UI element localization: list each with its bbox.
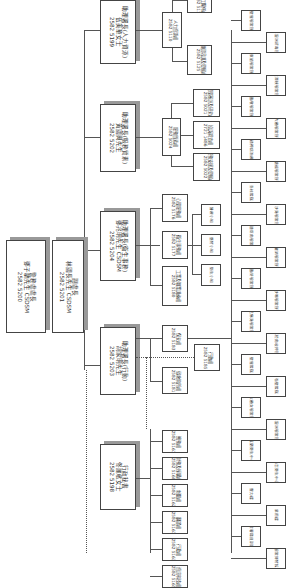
health-sub-box[interactable]: 藥物小組	[201, 234, 221, 256]
institution-box[interactable]: 紫荊樓	[266, 505, 286, 526]
ops-child-box[interactable]: 保安組 2582 5183	[162, 325, 188, 352]
health-child-box[interactable]: 工業及職業訓練組 2582 5180	[162, 266, 188, 306]
connector-line	[231, 149, 241, 150]
institution-box[interactable]: 壁屋懲教所	[241, 10, 261, 31]
health-sub-box[interactable]: 醫療小組	[201, 204, 221, 226]
institution-box[interactable]: 羅湖懲教所	[266, 247, 286, 268]
institution-box[interactable]: 豐力樓	[241, 483, 261, 504]
connector-line	[150, 285, 162, 286]
assistant-box-admin[interactable]: 行政秘書 佟麗敏女士 2582 5198	[100, 444, 136, 510]
admin-child-box[interactable]: 總務組2582 5161	[162, 430, 188, 453]
quality-child-box[interactable]: 管理審計及研究組 2582 5021	[193, 89, 220, 117]
connector-line	[231, 515, 266, 516]
institution-box[interactable]: 赤柱監獄	[241, 182, 261, 203]
connector-line	[231, 20, 241, 21]
hr-child-box[interactable]: 員工關係組 2582 5111	[187, 0, 212, 13]
admin-child-box[interactable]: 行政組2582 5163	[162, 538, 188, 561]
assistant-title: 助理署長(人力資源)	[121, 6, 127, 58]
hr-head-box[interactable]: 人力資源組 2582 5110	[162, 12, 182, 48]
institution-box[interactable]: 白沙灣懲教所	[266, 204, 286, 225]
deputy-name: 林國長先生 CSDSM	[65, 261, 71, 313]
institution-box[interactable]: 喜靈洲戒毒所	[266, 32, 286, 53]
institution-box[interactable]: 勵新懲教所	[241, 268, 261, 289]
connector-line	[231, 257, 266, 258]
box-phone: 2582 5177	[170, 234, 175, 257]
institution-name: 大欖懲教所	[274, 118, 278, 138]
institution-box[interactable]: 歌連臣角懲教所	[241, 225, 261, 246]
box-phone: 2582 5162	[170, 484, 175, 507]
box-title: 藥物小組	[209, 237, 213, 253]
connector-line	[136, 338, 162, 339]
connector-line	[231, 106, 241, 107]
health-child-box[interactable]: 衛生事務組 2582 5177	[162, 231, 188, 259]
institution-box[interactable]: 荔枝角收押所	[266, 333, 286, 354]
institution-box[interactable]: 石壁監獄	[266, 376, 286, 397]
assistant-phone: 2582 5203	[108, 341, 114, 381]
institution-box[interactable]: 大欖女懲教所	[241, 397, 261, 418]
institution-box[interactable]: 喜靈洲懲教所	[266, 419, 286, 440]
assistant-name: 鄧兆明先生 CSDSM	[115, 220, 121, 272]
connector-line	[84, 30, 85, 370]
hr-child-box[interactable]: 職員培訓及發展組 2582 5125	[187, 45, 212, 75]
connector-line	[231, 429, 266, 430]
institution-name: 塘福懲教所	[274, 161, 278, 181]
connector-line	[231, 536, 241, 537]
institution-box[interactable]: 東頭懲教所	[241, 53, 261, 74]
assistant-box-ops[interactable]: 助理署長(行動) 胡家明先生 2582 5203	[100, 327, 136, 395]
quality-child-box[interactable]: 投訴調查組 2721 1486	[193, 121, 220, 149]
connector-line	[150, 468, 162, 469]
connector-line	[231, 128, 266, 129]
box-title: 醫療小組	[209, 207, 213, 223]
institution-name: 壁屋懲教所	[249, 11, 253, 31]
connector-line	[171, 103, 172, 118]
health-sub-box[interactable]: 衛生小組	[201, 264, 221, 286]
institution-box[interactable]: 勵志更生中心	[266, 462, 286, 483]
institution-name: 大潭峽懲教所	[274, 75, 278, 96]
admin-child-box[interactable]: 財務及採購組2582 5160	[162, 457, 188, 480]
connector-line	[231, 343, 266, 344]
connector-line	[84, 365, 100, 366]
institution-name: 懲教署職員訓練院	[249, 526, 253, 547]
institution-box[interactable]: 芝麻灣懲教所	[241, 311, 261, 332]
box-phone: 2582 5161	[170, 430, 175, 453]
institution-box[interactable]: 塘福懲教所	[266, 161, 286, 182]
assistant-name: 伍美華女士	[115, 6, 121, 58]
institution-box[interactable]: 沙咀懲教所	[266, 290, 286, 311]
assistant-box-hr[interactable]: 助理署長(人力資源) 伍美華女士 2582 5199	[100, 0, 136, 64]
ops-child-box[interactable]: 懲教院所組 2582 5181	[162, 367, 188, 394]
assistant-box-quality[interactable]: 助理署長(服務質素) 黃國興先生 2582 5202	[100, 104, 136, 172]
institution-box[interactable]: 懲教博物館	[266, 548, 286, 569]
institution-name: 紫荊樓	[274, 509, 278, 521]
admin-child-box[interactable]: 新聞組2582 5162	[162, 484, 188, 507]
institution-box[interactable]: 小欖精神病治療中心	[241, 139, 261, 160]
deputy-box[interactable]: 副處長 林國長先生 CSDSM 2582 5201	[52, 240, 84, 333]
assistant-title: 助理署長(衛生事務)	[121, 220, 127, 272]
admin-child-box[interactable]: 資訊科技組2582 5165	[162, 565, 188, 588]
admin-child-box[interactable]: 翻譯組2582 5167	[162, 511, 188, 534]
institution-name: 荔枝角收押所	[274, 333, 278, 354]
institution-box[interactable]: 大欖懲教所	[266, 118, 286, 139]
institution-box[interactable]: 壁屋監獄	[241, 354, 261, 375]
connector-line	[136, 137, 162, 138]
commissioner-box[interactable]: 警務處處長 鄧子驕先生 CSDSM 2582 5200	[6, 240, 46, 333]
dotted-line	[136, 357, 194, 358]
institution-box[interactable]: 勵敬懲教所	[241, 96, 261, 117]
health-child-box[interactable]: 心理服務組 2582 5176	[162, 194, 188, 222]
quality-head-box[interactable]: 服務質素組 2582 5024	[162, 118, 181, 156]
connector-line	[231, 278, 241, 279]
connector-line	[150, 549, 162, 550]
institution-box[interactable]: 蕙蘭更生中心	[241, 440, 261, 461]
connector-line	[150, 429, 151, 553]
quality-child-box[interactable]: 服務支援及發展組 2582 5022	[193, 153, 220, 181]
connector-line	[171, 166, 193, 167]
connector-line	[231, 472, 266, 473]
commissioner-title: 警務處處長	[29, 261, 35, 313]
institution-box[interactable]: 懲教署職員訓練院	[241, 526, 261, 547]
box-phone: 2582 5183	[170, 327, 175, 350]
institution-box[interactable]: 大潭峽懲教所	[266, 75, 286, 96]
assistant-title: 行政秘書	[121, 462, 127, 492]
institution-name: 大欖女懲教所	[249, 397, 253, 418]
assistant-box-health[interactable]: 助理署長(衛生事務) 鄧兆明先生 CSDSM 2582 5204	[100, 211, 136, 281]
ops-child-box[interactable]: 行動組 2582 5185	[194, 344, 220, 371]
connector-line	[231, 63, 241, 64]
